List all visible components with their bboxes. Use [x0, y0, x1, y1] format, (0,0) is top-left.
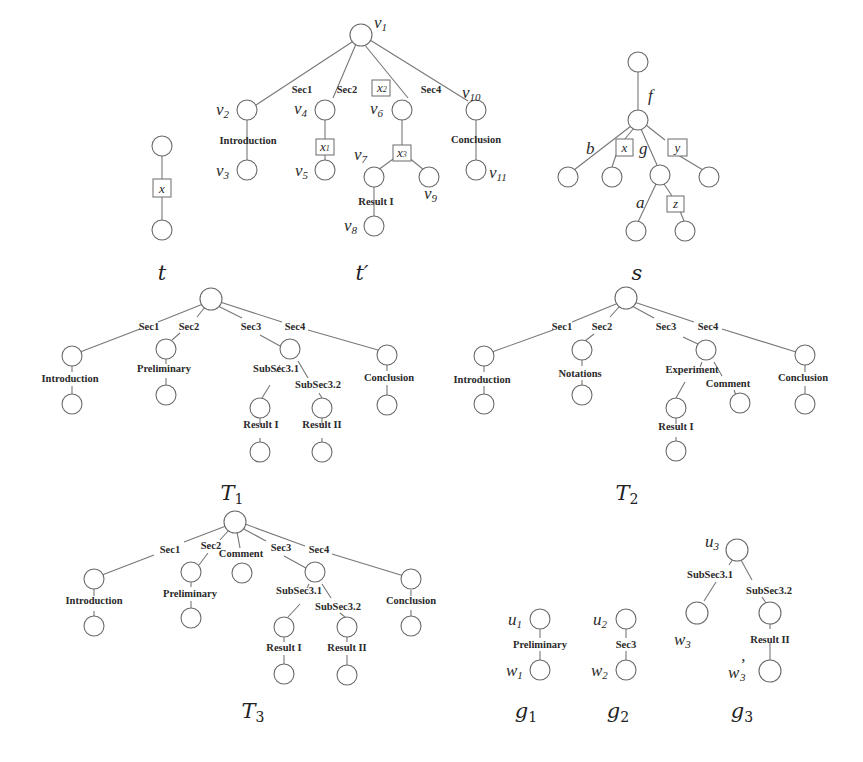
edge-label-a: a [636, 193, 645, 212]
tree-node [156, 339, 176, 359]
edge-label: Conclusion [364, 372, 414, 383]
tree-node [337, 617, 357, 637]
variable-label: x [158, 181, 165, 196]
node-w2 [616, 660, 636, 680]
tree-node [84, 569, 104, 589]
edge [340, 613, 345, 617]
edge-label-g: g [639, 139, 648, 158]
edge-label: Sec3 [241, 321, 261, 332]
edge [762, 597, 766, 603]
tree-node [305, 562, 325, 582]
edge-label-f: f [648, 86, 655, 105]
tree-node [615, 287, 637, 309]
node-v6 [392, 100, 412, 120]
tree-g3: SubSec3.1 SubSec3.2 Result II u3 w3 w’3 … [674, 532, 792, 725]
edge [102, 555, 154, 575]
tree-node [628, 110, 648, 130]
edge [199, 553, 208, 565]
edge-label: Sec1 [552, 321, 572, 332]
edge [664, 184, 672, 196]
edge [322, 584, 331, 598]
caption-t-prime: t′ [355, 261, 368, 285]
edge-label: Comment [706, 378, 751, 389]
node-label-v5: v5 [295, 161, 309, 181]
edge [585, 334, 594, 341]
node-v8 [364, 216, 384, 236]
edge [298, 361, 308, 378]
node-w3-prime [759, 660, 781, 682]
node-label-w3: w3 [674, 630, 691, 650]
edge-label: Introduction [454, 374, 511, 385]
caption-g2: g2 [607, 699, 629, 725]
tree-node [377, 345, 397, 365]
tree-figure: x t x2 x1 x3 Sec1 [0, 0, 863, 762]
tree-node [152, 220, 172, 240]
edge [260, 335, 280, 346]
caption-s: s [632, 261, 643, 285]
tree-node [626, 221, 646, 241]
node-v10 [466, 100, 486, 120]
tree-node [280, 339, 300, 359]
tree-node [474, 394, 494, 414]
edge [676, 382, 685, 398]
tree-node [666, 398, 686, 418]
edge-label: Result I [358, 196, 393, 207]
node-u1 [530, 609, 550, 629]
edge [197, 307, 205, 317]
node-u2 [616, 609, 636, 629]
edge [237, 532, 240, 548]
tree-node [730, 393, 750, 413]
edge [220, 530, 229, 540]
tree-t-prime: x2 x1 x3 Sec1 Sec2 Sec4 Introduction Res… [216, 13, 507, 285]
edge [158, 304, 203, 322]
edge [288, 604, 300, 617]
caption-g1: g1 [515, 699, 537, 725]
node-label-w1: w1 [506, 661, 523, 681]
tree-node [602, 167, 622, 187]
tree-node [200, 288, 222, 310]
tree-node [250, 398, 270, 418]
tree-node [699, 167, 719, 187]
node-v4 [315, 100, 335, 120]
edge [80, 329, 140, 352]
edge-label: Introduction [42, 373, 99, 384]
edge-label: SubSec3.2 [315, 601, 361, 612]
edge-label: Preliminary [137, 363, 192, 374]
tree-node [759, 602, 781, 624]
node-v7 [364, 167, 384, 187]
tree-node [232, 563, 252, 583]
node-v11 [466, 160, 486, 180]
node-label-v9: v9 [424, 184, 438, 204]
edge-label: Sec1 [160, 544, 180, 555]
edge-label: Sec4 [285, 321, 306, 332]
tree-node [628, 52, 648, 72]
tree-node [156, 385, 176, 405]
node-u3 [726, 539, 748, 561]
edge [262, 385, 270, 398]
edge-label: Introduction [66, 595, 123, 606]
edge-label: SubSec3.2 [746, 585, 792, 596]
caption-T1: T1 [221, 481, 244, 507]
edge [492, 330, 553, 352]
edge-label: Sec4 [309, 544, 330, 555]
tree-T3: Sec1 Sec2 Comment Sec3 Sec4 Introduction… [66, 511, 437, 725]
node-label-w2: w2 [591, 661, 608, 681]
tree-t: x t [152, 136, 172, 285]
node-w1 [530, 660, 550, 680]
edge-label: Experiment [665, 364, 719, 375]
edge [704, 582, 716, 601]
edge-label: Result II [750, 634, 789, 645]
tree-node [337, 665, 357, 685]
tree-node [666, 441, 686, 461]
node-label-v6: v6 [370, 99, 384, 119]
tree-T1: Sec1 Sec2 Sec3 Sec4 Introduction Prelimi… [42, 288, 415, 507]
node-label-w3-prime: w’3 [728, 655, 746, 683]
tree-node [795, 345, 815, 365]
edge-label: Conclusion [386, 595, 436, 606]
edge [610, 307, 619, 317]
edge-label: SubSec3.2 [295, 379, 341, 390]
tree-node [572, 385, 592, 405]
tree-T2: Sec1 Sec2 Sec3 Sec4 Introduction Notatio… [454, 287, 829, 507]
edge [572, 304, 616, 322]
edge-label: Sec3 [656, 321, 676, 332]
